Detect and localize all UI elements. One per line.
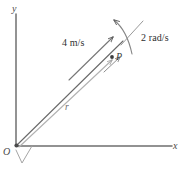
y-axis-label: y bbox=[12, 4, 16, 14]
origin-label: O bbox=[3, 147, 10, 157]
origin-dot bbox=[14, 143, 18, 147]
linear-velocity-label: 4 m/s bbox=[62, 38, 84, 48]
point-p-label: P bbox=[116, 52, 122, 62]
x-axis-label: x bbox=[173, 141, 177, 151]
radius-vector-label: r bbox=[65, 103, 69, 113]
radial-ray bbox=[17, 41, 123, 145]
point-p-dot bbox=[110, 55, 114, 59]
physics-diagram: y x O P r 4 m/s 2 rad/s bbox=[0, 0, 184, 170]
angular-velocity-label: 2 rad/s bbox=[141, 33, 169, 43]
rotation-arc bbox=[114, 20, 132, 54]
diagram-canvas bbox=[0, 0, 184, 170]
origin-angle-mark bbox=[16, 146, 32, 163]
